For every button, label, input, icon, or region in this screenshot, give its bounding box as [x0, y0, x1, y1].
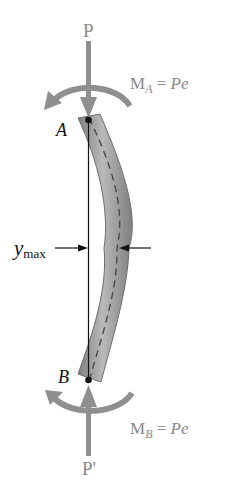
point-label-b: B	[58, 367, 69, 387]
point-b-dot	[85, 377, 92, 384]
moment-label-bottom: MB = Pe	[130, 419, 189, 441]
column-diagram: P MA = Pe A ymax B MB = Pe P'	[0, 0, 227, 488]
moment-label-top: MA = Pe	[130, 74, 189, 96]
point-a-dot	[85, 117, 92, 124]
ymax-left-arrow	[55, 245, 88, 252]
load-arrow-bottom	[80, 385, 97, 456]
load-label-bottom: P'	[82, 458, 96, 479]
point-label-a: A	[55, 120, 68, 140]
ymax-label: ymax	[12, 236, 46, 261]
load-arrow-top	[80, 41, 97, 118]
load-label-top: P	[83, 20, 94, 41]
